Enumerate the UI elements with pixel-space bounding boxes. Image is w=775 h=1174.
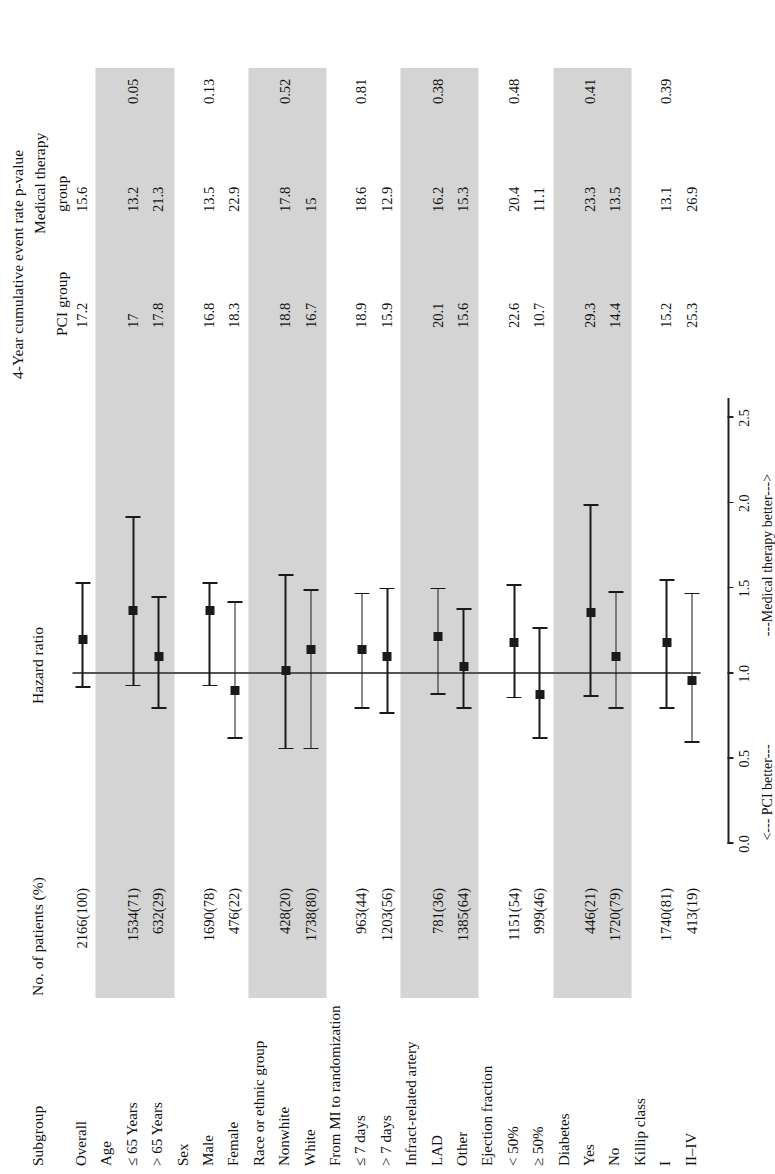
- row-label: Ejection fraction: [478, 1066, 495, 1166]
- row-medical-rate: 23.3: [581, 187, 598, 212]
- row-medical-rate: 15: [302, 198, 319, 213]
- ci-cap-lower: [608, 707, 623, 709]
- row-label: Race or ethnic group: [250, 1041, 267, 1166]
- row-medical-rate: 12.9: [378, 187, 395, 212]
- row-n-patients: 1690(78): [200, 888, 217, 984]
- ci-cap-lower: [125, 685, 140, 687]
- row-n-patients: 781(36): [429, 888, 446, 984]
- point-estimate-marker: [433, 632, 442, 641]
- row-p-value: 0.81: [352, 79, 369, 104]
- x-axis-tick: [727, 757, 733, 759]
- row-p-value: 0.05: [124, 79, 141, 104]
- row-label: Other: [453, 1132, 470, 1166]
- row-medical-rate: 16.2: [429, 187, 446, 212]
- row-label: Infract-related artery: [402, 1042, 419, 1167]
- confidence-interval-line: [538, 628, 540, 739]
- row-n-patients: 999(46): [530, 888, 547, 984]
- ci-cap-upper: [608, 591, 623, 593]
- point-estimate-marker: [128, 606, 137, 615]
- row-pci-rate: 16.7: [302, 303, 319, 328]
- point-estimate-marker: [205, 606, 214, 615]
- row-pci-rate: 15.6: [454, 303, 471, 328]
- header-subgroup: Subgroup: [28, 1106, 46, 1166]
- row-medical-rate: 15.3: [454, 187, 471, 212]
- ci-cap-lower: [75, 686, 90, 688]
- ci-cap-lower: [659, 707, 674, 709]
- ci-cap-lower: [506, 697, 521, 699]
- ci-cap-upper: [303, 589, 318, 591]
- row-pci-rate: 17.2: [73, 303, 90, 328]
- row-pci-rate: 18.3: [225, 303, 242, 328]
- ci-cap-lower: [583, 695, 598, 697]
- ci-cap-upper: [456, 608, 471, 610]
- confidence-interval-line: [284, 575, 286, 749]
- point-estimate-marker: [611, 652, 620, 661]
- x-axis-tick: [727, 842, 733, 844]
- row-pci-rate: 17.8: [149, 303, 166, 328]
- row-pci-rate: 18.8: [276, 303, 293, 328]
- ci-cap-upper: [227, 601, 242, 603]
- row-label: No: [605, 1148, 622, 1166]
- row-n-patients: 1534(71): [124, 888, 141, 984]
- header-no-patients: No. of patients (%): [28, 877, 46, 996]
- row-label: II–IV: [682, 1133, 699, 1166]
- ci-cap-upper: [506, 584, 521, 586]
- row-n-patients: 446(21): [581, 888, 598, 984]
- axis-note-pci-better: <--- PCI better---: [759, 744, 775, 840]
- confidence-interval-line: [386, 588, 388, 712]
- axis-note-medical-better: ---Medical therapy better--->: [759, 474, 775, 636]
- header-medical-therapy: Medical therapy: [30, 133, 48, 234]
- point-estimate-marker: [357, 645, 366, 654]
- row-medical-rate: 17.8: [276, 187, 293, 212]
- ci-cap-lower: [303, 748, 318, 750]
- ci-cap-upper: [659, 579, 674, 581]
- row-label: ≤ 7 days: [351, 1115, 368, 1166]
- row-n-patients: 1720(79): [606, 888, 623, 984]
- row-pci-rate: 15.9: [378, 303, 395, 328]
- ci-cap-lower: [354, 707, 369, 709]
- x-axis-tick-label: 2.5: [736, 400, 752, 436]
- row-label: I: [656, 1161, 673, 1166]
- x-axis-line: [727, 398, 729, 844]
- confidence-interval-line: [310, 590, 312, 748]
- x-axis-tick-label: 1.0: [736, 656, 752, 692]
- x-axis-tick-label: 2.0: [736, 485, 752, 521]
- confidence-interval-line: [589, 505, 591, 696]
- row-pci-rate: 29.3: [581, 303, 598, 328]
- row-p-value: 0.41: [581, 79, 598, 104]
- row-label: ≥ 50%: [529, 1127, 546, 1166]
- row-label: Age: [97, 1141, 114, 1166]
- ci-cap-upper: [151, 596, 166, 598]
- row-medical-rate: 13.2: [124, 187, 141, 212]
- row-label: > 7 days: [377, 1115, 394, 1166]
- row-pci-rate: 10.7: [530, 303, 547, 328]
- point-estimate-marker: [306, 645, 315, 654]
- row-pci-rate: 18.9: [352, 303, 369, 328]
- row-pci-rate: 25.3: [683, 303, 700, 328]
- ci-cap-lower: [430, 693, 445, 695]
- x-axis-tick: [727, 502, 733, 504]
- point-estimate-marker: [509, 638, 518, 647]
- point-estimate-marker: [662, 638, 671, 647]
- point-estimate-marker: [586, 608, 595, 617]
- row-label: White: [301, 1129, 318, 1166]
- x-axis-tick: [727, 672, 733, 674]
- confidence-interval-line: [615, 592, 617, 708]
- x-axis-tick: [727, 587, 733, 589]
- header-event-rate-title: 4-Year cumulative event rate p-value: [8, 150, 26, 379]
- row-pci-rate: 20.1: [429, 303, 446, 328]
- confidence-interval-line: [437, 588, 439, 694]
- point-estimate-marker: [281, 666, 290, 675]
- ci-cap-lower: [456, 707, 471, 709]
- row-medical-rate: 13.1: [657, 187, 674, 212]
- ci-cap-upper: [684, 593, 699, 595]
- row-medical-rate: 13.5: [200, 187, 217, 212]
- row-p-value: 0.13: [200, 79, 217, 104]
- ci-cap-lower: [151, 707, 166, 709]
- confidence-interval-line: [132, 517, 134, 686]
- row-label: > 65 Years: [148, 1102, 165, 1166]
- point-estimate-marker: [230, 686, 239, 695]
- row-label: Sex: [174, 1144, 191, 1167]
- row-label: < 50%: [504, 1126, 521, 1166]
